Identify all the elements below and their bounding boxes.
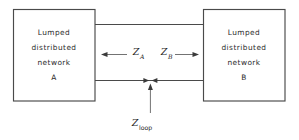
- z-b-subscript: B: [167, 53, 173, 60]
- impedance-z-a: Z A: [101, 46, 145, 60]
- z-loop-subscript: loop: [139, 124, 152, 132]
- network-a-line-3: network: [37, 58, 70, 67]
- z-a-symbol: Z: [132, 46, 140, 57]
- impedance-z-loop: Z loop: [131, 84, 153, 133]
- block-network-a: Lumped distributed network A: [14, 10, 96, 102]
- z-a-arrowhead-icon: [101, 52, 108, 57]
- network-b-line-4: B: [241, 73, 247, 82]
- z-a-subscript: A: [139, 53, 145, 60]
- diagram-canvas: Lumped distributed network A Lumped dist…: [0, 0, 299, 140]
- network-b-line-1: Lumped: [228, 28, 261, 37]
- network-impedance-diagram: Lumped distributed network A Lumped dist…: [0, 0, 299, 140]
- reference-arrowhead-left-icon: [143, 78, 149, 83]
- network-a-line-4: A: [51, 73, 57, 82]
- network-a-outline: [14, 10, 96, 102]
- z-loop-symbol: Z: [131, 117, 139, 128]
- z-loop-arrowhead-icon: [148, 84, 153, 91]
- block-network-b: Lumped distributed network B: [204, 10, 286, 102]
- network-b-line-3: network: [227, 58, 260, 67]
- network-b-line-2: distributed: [221, 43, 266, 52]
- reference-arrowhead-right-icon: [152, 78, 158, 83]
- z-b-symbol: Z: [160, 46, 168, 57]
- network-a-line-2: distributed: [31, 43, 76, 52]
- network-b-outline: [204, 10, 286, 102]
- impedance-z-b: Z B: [160, 46, 199, 60]
- network-a-line-1: Lumped: [38, 28, 71, 37]
- z-b-arrowhead-icon: [193, 52, 200, 57]
